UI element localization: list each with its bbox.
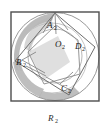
vertex-label-A2-sub: 2 — [54, 25, 57, 31]
geometry-figure: A 2 B 2 C 2 D 2 O 2 R 2 — [0, 0, 109, 130]
vertex-label-D2-base: D — [74, 41, 82, 51]
vertex-label-A2-base: A — [46, 20, 53, 30]
vertex-label-D2-sub: 2 — [82, 46, 85, 52]
vertex-label-B2-sub: 2 — [23, 62, 26, 68]
figure-caption-base: R — [47, 113, 54, 123]
vertex-label-C2-base: C — [61, 83, 68, 93]
center-label-O2-base: O — [55, 39, 62, 49]
vertex-label-C2-sub: 2 — [68, 88, 71, 94]
vertex-label-B2-base: B — [16, 57, 22, 67]
figure-caption-sub: 2 — [55, 118, 58, 124]
center-label-O2-sub: 2 — [62, 44, 65, 50]
geometry-canvas: A 2 B 2 C 2 D 2 O 2 R 2 — [0, 0, 109, 130]
